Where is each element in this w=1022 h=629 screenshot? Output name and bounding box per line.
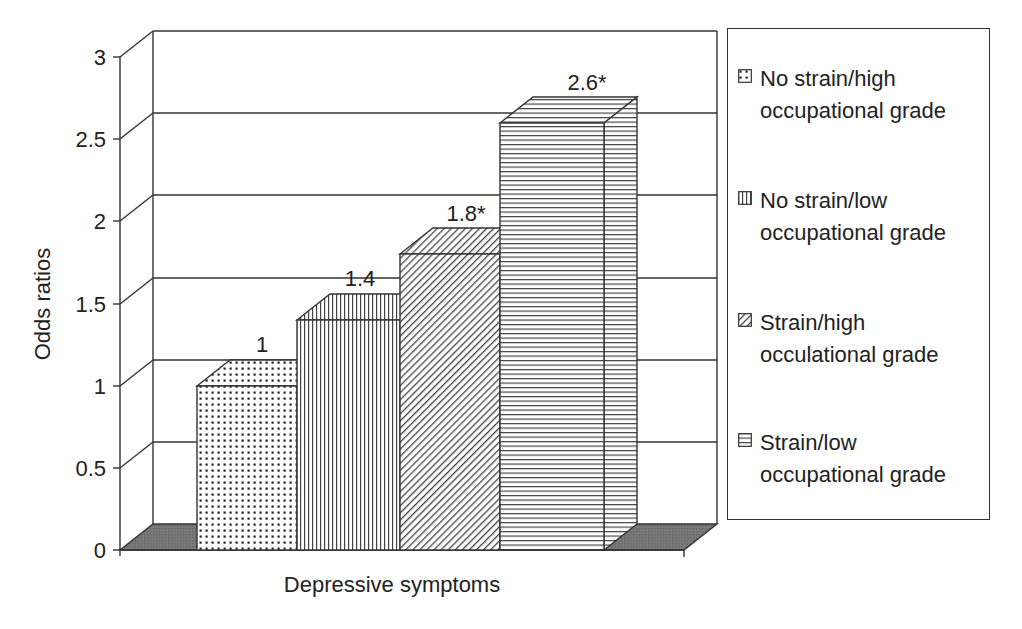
legend-label: occupational grade <box>760 95 946 127</box>
bar-strain-low-grade <box>500 97 637 550</box>
legend-label: Strain/high <box>760 307 939 339</box>
data-label-4: 2.6* <box>567 70 607 95</box>
dots-swatch-icon <box>738 69 752 83</box>
data-label-2: 1.4 <box>345 266 376 291</box>
legend-label: Strain/low <box>760 427 946 459</box>
y-tick-2: 2 <box>94 209 106 234</box>
y-tick-0: 0 <box>94 538 106 563</box>
legend-item-no-strain-high: No strain/high occupational grade <box>738 63 946 127</box>
y-axis-title: Odds ratios <box>30 248 55 361</box>
diagonal-lines-swatch-icon <box>738 313 752 327</box>
data-label-3: 1.8* <box>446 201 486 226</box>
legend-label: No strain/high <box>760 63 946 95</box>
legend-label: occupational grade <box>760 459 946 491</box>
legend-item-strain-high: Strain/high occulational grade <box>738 307 939 371</box>
y-tick-2.5: 2.5 <box>75 127 106 152</box>
vertical-lines-swatch-icon <box>738 191 752 205</box>
legend-label: occupational grade <box>760 217 946 249</box>
y-tick-1: 1 <box>94 374 106 399</box>
y-tick-0.5: 0.5 <box>75 456 106 481</box>
y-tick-labels: 0 0.5 1 1.5 2 2.5 3 <box>75 45 106 563</box>
y-tick-1.5: 1.5 <box>75 292 106 317</box>
x-axis-title: Depressive symptoms <box>284 572 500 597</box>
data-label-1: 1 <box>256 332 268 357</box>
legend-item-no-strain-low: No strain/low occupational grade <box>738 185 946 249</box>
legend: No strain/high occupational grade No str… <box>727 28 990 520</box>
legend-item-strain-low: Strain/low occupational grade <box>738 427 946 491</box>
y-tick-3: 3 <box>94 45 106 70</box>
horizontal-lines-swatch-icon <box>738 433 752 447</box>
legend-label: occulational grade <box>760 339 939 371</box>
legend-label: No strain/low <box>760 185 946 217</box>
